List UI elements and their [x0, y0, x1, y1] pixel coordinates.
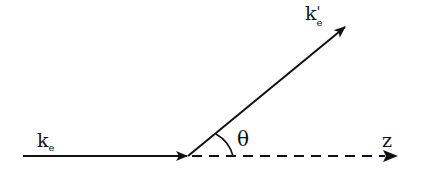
scattered-vector-arrow: [188, 27, 345, 156]
scattering-diagram: ke k'e θ z: [0, 0, 424, 175]
z-axis-arrowhead-icon: [383, 150, 398, 162]
angle-arc: [216, 134, 233, 156]
angle-label: θ: [237, 127, 249, 151]
diagram-svg: ke k'e θ z: [0, 0, 424, 175]
incident-vector-label: ke: [37, 129, 55, 153]
axis-label-z: z: [382, 129, 392, 151]
scattered-vector-label: k'e: [305, 2, 322, 28]
